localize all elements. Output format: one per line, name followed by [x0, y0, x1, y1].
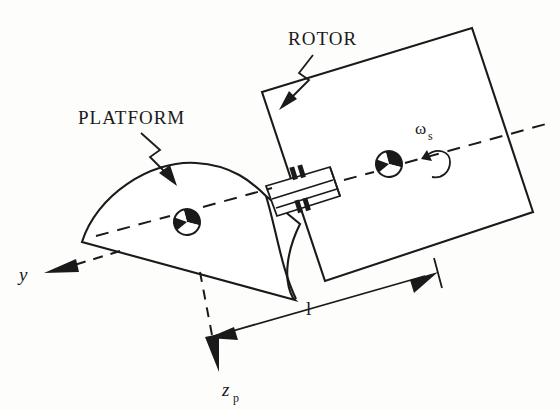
rotor-label: ROTOR	[288, 28, 357, 49]
spin-rate-subscript: s	[428, 129, 433, 143]
y-axis-arrow	[44, 251, 120, 273]
platform-label: PLATFORM	[78, 107, 185, 128]
length-dimension-label: l	[306, 298, 311, 319]
figure-canvas: PLATFORM ROTOR ω s y z p l	[0, 0, 560, 410]
rotor-platform-diagram: PLATFORM ROTOR ω s y z p l	[0, 0, 560, 410]
spin-rate-symbol: ω	[415, 119, 426, 138]
z-axis-label: z	[221, 379, 230, 400]
y-axis-label: y	[17, 264, 28, 285]
z-axis-arrow	[200, 272, 219, 372]
z-axis-subscript: p	[233, 391, 239, 405]
